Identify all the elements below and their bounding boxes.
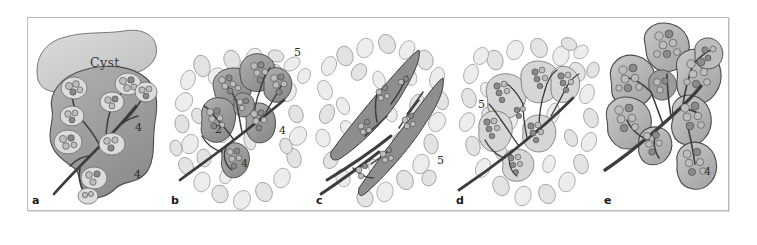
panel-b-letter: b: [171, 194, 179, 207]
panel-d: 5 d: [453, 18, 601, 212]
panel-a-letter: a: [32, 194, 39, 207]
panel-e: 4 e: [601, 18, 730, 212]
panel-a: Cyst 4 4 a: [28, 18, 168, 212]
panel-a-illustration: [28, 18, 168, 212]
cyst-label: Cyst: [90, 55, 120, 70]
panel-e-letter: e: [604, 194, 611, 207]
panel-d-letter: d: [456, 194, 464, 207]
figure-root: Cyst 4 4 a: [0, 0, 757, 245]
panel-c-illustration: [313, 18, 453, 212]
panel-c: 5 c: [313, 18, 453, 212]
panel-e-illustration: [601, 18, 730, 212]
panel-b: 5 2 4 4 b: [168, 18, 313, 212]
panel-d-illustration: [453, 18, 601, 212]
figure-frame: Cyst 4 4 a: [27, 17, 729, 211]
panel-b-illustration: [168, 18, 313, 212]
panel-c-letter: c: [316, 194, 323, 207]
